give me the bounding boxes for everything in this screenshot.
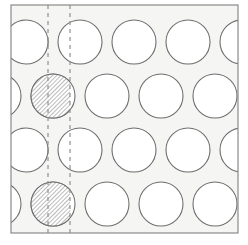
hole (139, 182, 183, 226)
hole (112, 128, 156, 172)
hatched-hole-segment (31, 74, 75, 118)
hole (166, 128, 210, 172)
figure-root (0, 0, 248, 245)
hole (112, 20, 156, 64)
hole (193, 182, 237, 226)
hole (85, 74, 129, 118)
hole (58, 128, 102, 172)
hole (85, 182, 129, 226)
hole (58, 20, 102, 64)
perforated-plate-diagram (0, 0, 248, 245)
hole (193, 74, 237, 118)
hole (166, 20, 210, 64)
hole (139, 74, 183, 118)
hatched-hole-segment (31, 182, 75, 226)
